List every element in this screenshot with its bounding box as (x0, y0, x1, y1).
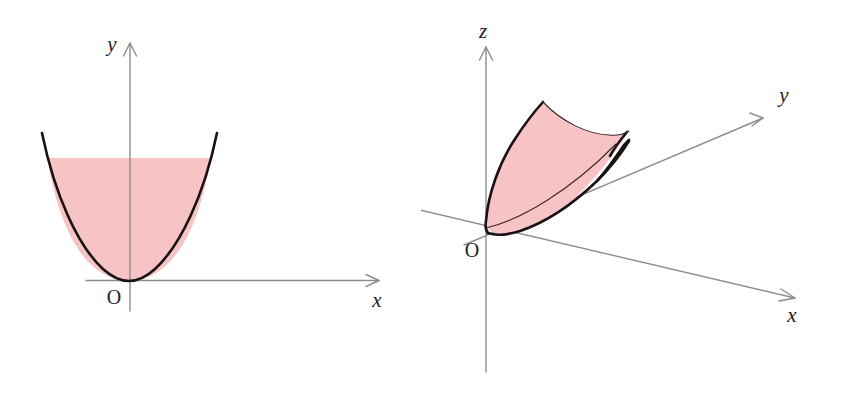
svg-3d-parabolic-cylinder: y x z O (421, 0, 842, 394)
shaded-region-2d (48, 158, 211, 281)
y-axis-label-2d: y (105, 32, 117, 56)
panel-3d-parabolic-cylinder: y x z O (421, 0, 842, 394)
y-axis-arrowhead-3d (750, 113, 763, 126)
origin-label-2d: O (107, 286, 121, 308)
figure-root: x y O (0, 0, 842, 394)
svg-2d-parabola: x y O (0, 0, 421, 394)
y-axis-label-3d: y (777, 83, 789, 107)
z-axis-label-3d: z (478, 19, 487, 43)
x-axis-label-3d: x (786, 303, 797, 327)
x-axis-label-2d: x (371, 288, 382, 312)
panel-2d-cross-section: x y O (0, 0, 421, 394)
origin-label-3d: O (465, 239, 479, 261)
